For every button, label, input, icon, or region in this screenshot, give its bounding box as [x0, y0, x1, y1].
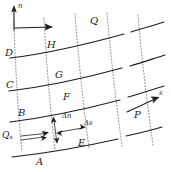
normal-line-5 — [138, 15, 153, 145]
streamline-c-g — [9, 68, 122, 91]
delta-n-measure-group — [51, 117, 60, 144]
streamline-d-h-q-right — [131, 22, 164, 32]
axis-label-s: s — [159, 90, 163, 97]
node-label-f: F — [63, 92, 70, 102]
node-label-d: D — [5, 48, 13, 58]
axis-s-group — [127, 97, 160, 113]
normal-lines-group — [14, 13, 153, 152]
axis-label-n: n — [18, 3, 23, 10]
figure-canvas: n s D H Q C G B F P A E Δn Δs Qs — [0, 0, 171, 172]
delta-s-span — [60, 128, 82, 132]
node-label-h: H — [47, 40, 56, 50]
node-label-q: Q — [90, 16, 98, 26]
normal-line-4 — [107, 13, 122, 146]
delta-n-label: Δn — [62, 113, 72, 120]
node-label-c: C — [6, 80, 14, 90]
flux-arrow-upper-line — [21, 134, 45, 137]
delta-s-arrowhead-left — [56, 130, 63, 136]
normal-line-1 — [14, 22, 22, 152]
axis-s-line — [127, 99, 155, 112]
node-label-e: E — [78, 138, 86, 148]
streamline-d-h-q — [10, 34, 124, 58]
node-label-a: A — [36, 157, 43, 167]
delta-n-span — [54, 121, 57, 141]
delta-s-measure-group — [56, 124, 86, 136]
delta-s-label: Δs — [84, 120, 93, 127]
flux-arrow-group — [21, 131, 49, 141]
node-label-b: B — [18, 108, 26, 118]
flux-subscript: s — [9, 133, 12, 140]
flux-label: Qs — [2, 131, 12, 140]
node-label-g: G — [55, 70, 63, 80]
streamlines-group — [9, 22, 165, 157]
streamline-c-g-right — [130, 55, 165, 66]
flux-arrow-lower-line — [21, 137, 44, 140]
streamline-a-e — [12, 139, 118, 157]
top-horizontal-arrowhead — [45, 24, 53, 31]
node-label-p: P — [134, 110, 141, 120]
streamline-a-e-right — [126, 127, 162, 136]
